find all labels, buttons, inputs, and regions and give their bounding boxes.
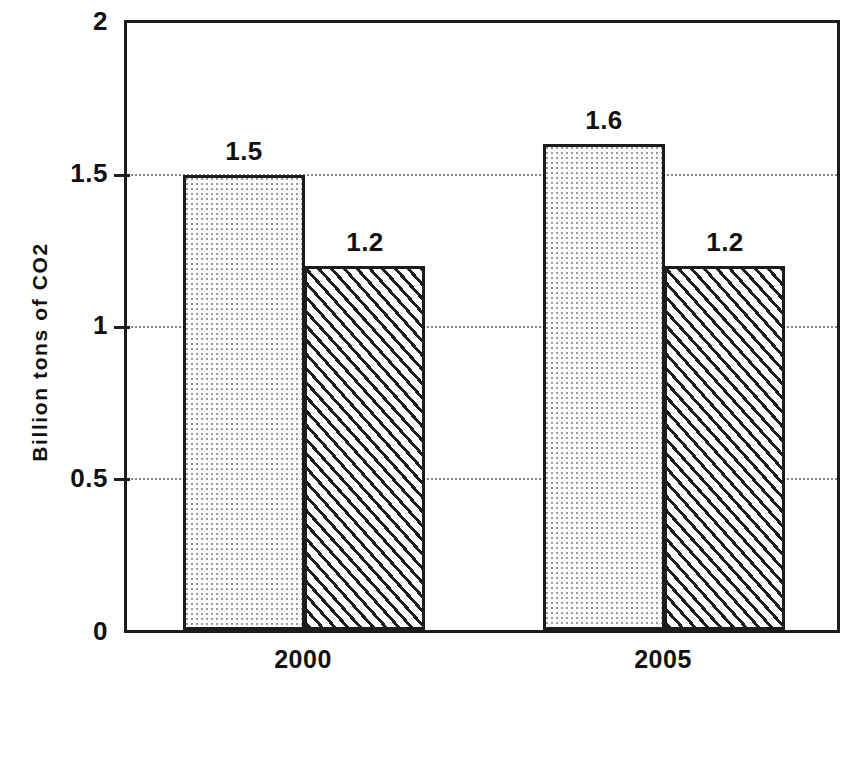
x-tick-label-2000: 2000 [243, 645, 363, 674]
bar-chart-figure: Billion tons of CO2 2 1.5 1 0.5 0 1.5 1.… [0, 0, 846, 766]
value-label-2000-series-1: 1.5 [225, 136, 263, 167]
bar-2000-series-1[interactable] [183, 175, 305, 630]
bar-2005-series-2[interactable] [664, 266, 785, 630]
y-tick-label-2: 2 [16, 8, 108, 34]
value-label-2005-series-2: 1.2 [706, 227, 744, 258]
y-axis-tick-labels: 2 1.5 1 0.5 0 [0, 0, 108, 766]
bar-2000-series-2[interactable] [304, 266, 425, 630]
bar-2005-series-1[interactable] [543, 144, 665, 630]
y-tick-mark-1.0 [114, 326, 130, 329]
plot-area: 1.5 1.2 1.6 1.2 [124, 20, 840, 633]
y-tick-mark-0.5 [114, 478, 130, 481]
y-tick-label-1: 1 [16, 312, 108, 338]
value-label-2005-series-1: 1.6 [585, 105, 623, 136]
x-tick-label-2005: 2005 [603, 645, 723, 674]
y-tick-label-0.5: 0.5 [16, 465, 108, 491]
y-tick-label-1.5: 1.5 [16, 160, 108, 186]
y-tick-label-0: 0 [16, 618, 108, 644]
value-label-2000-series-2: 1.2 [346, 227, 384, 258]
y-tick-mark-1.5 [114, 174, 130, 177]
